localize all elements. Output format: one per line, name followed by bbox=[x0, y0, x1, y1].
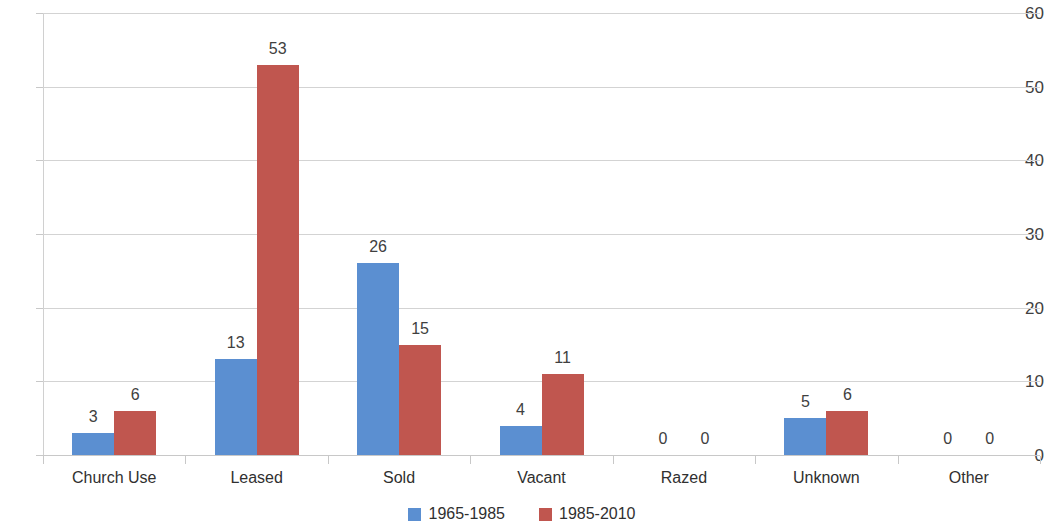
x-axis-category-label: Church Use bbox=[43, 470, 185, 486]
bar bbox=[399, 345, 441, 456]
x-axis-tick-mark bbox=[43, 456, 44, 464]
bar bbox=[357, 263, 399, 455]
gridline bbox=[43, 308, 1040, 309]
x-axis-tick-mark bbox=[613, 456, 614, 464]
y-axis-tick-mark bbox=[36, 87, 43, 88]
bar-value-label: 4 bbox=[500, 402, 542, 418]
bar-chart: 0102030405060 3613532615411005600 Church… bbox=[0, 0, 1044, 532]
gridline bbox=[43, 160, 1040, 161]
legend-item-label: 1965-1985 bbox=[428, 506, 505, 522]
bar-value-label: 11 bbox=[542, 350, 584, 366]
gridline bbox=[43, 87, 1040, 88]
legend-swatch-1965-1985 bbox=[408, 508, 421, 521]
bar-value-label: 15 bbox=[399, 321, 441, 337]
chart-legend: 1965-19851985-2010 bbox=[0, 506, 1044, 522]
bar bbox=[542, 374, 584, 455]
x-axis-category-label: Unknown bbox=[755, 470, 897, 486]
x-axis-category-label: Razed bbox=[613, 470, 755, 486]
bar-value-label: 53 bbox=[257, 41, 299, 57]
x-axis-category-label: Leased bbox=[185, 470, 327, 486]
x-axis-tick-mark bbox=[1040, 456, 1041, 464]
bar bbox=[114, 411, 156, 455]
bar-value-label: 0 bbox=[684, 431, 726, 447]
bar bbox=[257, 65, 299, 455]
bar-value-label: 0 bbox=[927, 431, 969, 447]
legend-swatch-1985-2010 bbox=[539, 508, 552, 521]
x-axis-tick-mark bbox=[470, 456, 471, 464]
bar-value-label: 26 bbox=[357, 239, 399, 255]
legend-item[interactable]: 1965-1985 bbox=[408, 506, 505, 522]
y-axis-tick-mark bbox=[36, 13, 43, 14]
bar bbox=[784, 418, 826, 455]
bar-value-label: 0 bbox=[642, 431, 684, 447]
x-axis-tick-mark bbox=[755, 456, 756, 464]
y-axis-tick-mark bbox=[36, 381, 43, 382]
x-axis-tick-mark bbox=[185, 456, 186, 464]
y-axis-tick-mark bbox=[36, 160, 43, 161]
bar-value-label: 0 bbox=[969, 431, 1011, 447]
x-axis-category-label: Vacant bbox=[470, 470, 612, 486]
x-axis-category-label: Sold bbox=[328, 470, 470, 486]
bar bbox=[72, 433, 114, 455]
plot-area: 3613532615411005600 bbox=[43, 13, 1040, 455]
x-axis-tick-mark bbox=[328, 456, 329, 464]
bar bbox=[826, 411, 868, 455]
bar-value-label: 6 bbox=[826, 387, 868, 403]
x-axis-tick-mark bbox=[898, 456, 899, 464]
bar-value-label: 6 bbox=[114, 387, 156, 403]
y-axis-tick-mark bbox=[36, 308, 43, 309]
gridline bbox=[43, 234, 1040, 235]
x-axis-line bbox=[43, 455, 1040, 456]
y-axis-tick-mark bbox=[36, 455, 43, 456]
x-axis-category-label: Other bbox=[898, 470, 1040, 486]
gridline bbox=[43, 13, 1040, 14]
bar-value-label: 3 bbox=[72, 409, 114, 425]
bar-value-label: 13 bbox=[215, 335, 257, 351]
legend-item-label: 1985-2010 bbox=[559, 506, 636, 522]
legend-item[interactable]: 1985-2010 bbox=[539, 506, 636, 522]
y-axis-tick-mark bbox=[36, 234, 43, 235]
bar bbox=[500, 426, 542, 455]
bar bbox=[215, 359, 257, 455]
bar-value-label: 5 bbox=[784, 394, 826, 410]
